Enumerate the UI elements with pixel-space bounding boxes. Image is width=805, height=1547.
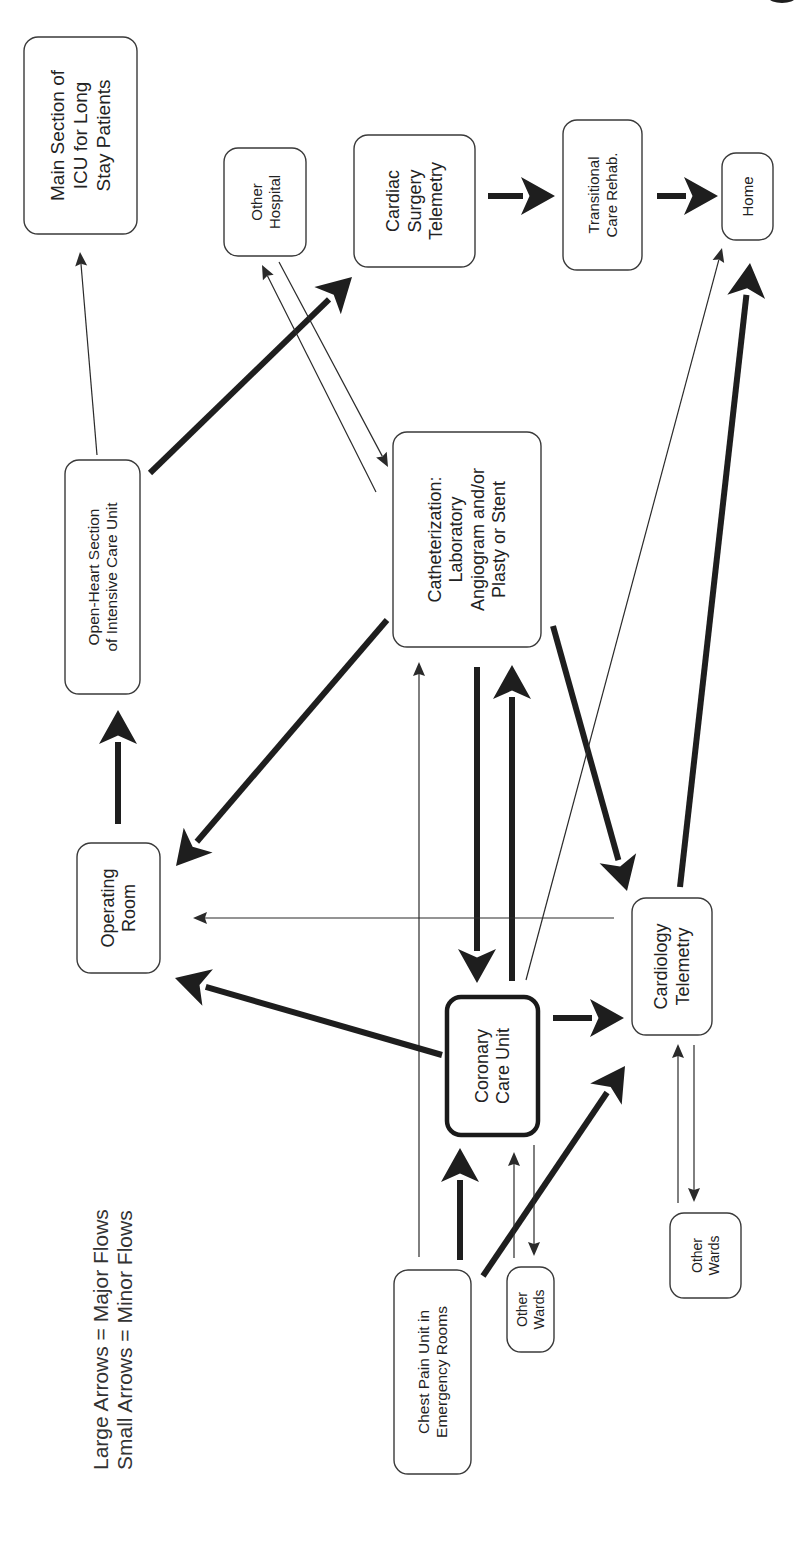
- edge-cardiology-telemetry-to-operating-room: [193, 912, 614, 924]
- edge-other-wards-tele-to-cardiology-telemetry: [672, 1044, 684, 1203]
- arrowhead-icon: [528, 1242, 540, 1256]
- node-label-line: Cardiology: [651, 923, 671, 1009]
- node-label-line: Other: [689, 1238, 705, 1273]
- edge-open-heart-to-main-icu: [75, 252, 97, 455]
- edge-shaft: [206, 987, 442, 1055]
- arrowhead-icon: [684, 177, 718, 215]
- node-label-line: Cardiac: [383, 170, 403, 232]
- arrowhead-icon: [590, 999, 624, 1037]
- patient-flow-diagram: Main Section ofICU for LongStay Patients…: [0, 0, 805, 1547]
- arrowhead-icon: [508, 1152, 520, 1166]
- node-label-line: Coronary: [472, 1029, 492, 1103]
- node-label-line: Wards: [531, 1290, 547, 1330]
- legend-minor-flows: Small Arrows = Minor Flows: [113, 1210, 136, 1470]
- node-label-line: Other: [514, 1292, 530, 1327]
- node-transitional: TransitionalCare Rehab.: [563, 120, 642, 270]
- edge-coronary-care-to-cath-lab: [493, 665, 531, 981]
- edge-coronary-care-to-other-wards-ccu: [528, 1145, 540, 1256]
- node-label-line: Emergency Rooms: [433, 1306, 450, 1438]
- arrowhead-icon: [493, 665, 531, 699]
- nodes-layer: Main Section ofICU for LongStay Patients…: [24, 37, 773, 1474]
- node-chest-pain: Chest Pain Unit inEmergency Rooms: [394, 1270, 471, 1474]
- node-label-line: Stay Patients: [93, 80, 114, 192]
- edge-cardiology-telemetry-to-other-wards-tele: [688, 1045, 700, 1202]
- edge-cardiac-surgery-to-transitional: [488, 177, 555, 215]
- node-other-wards-tele: OtherWards: [670, 1213, 741, 1298]
- node-label-line: Main Section of: [47, 69, 68, 201]
- node-label-line: Wards: [706, 1236, 722, 1276]
- arrowhead-icon: [193, 912, 207, 924]
- node-cardiology-telemetry: CardiologyTelemetry: [632, 898, 712, 1035]
- node-label-line: Telemetry: [673, 927, 693, 1005]
- arrowhead-icon: [99, 710, 137, 744]
- edge-operating-room-to-open-heart: [99, 710, 137, 824]
- node-label-line: Hospital: [266, 175, 283, 229]
- edge-cath-lab-to-cardiology-telemetry: [553, 626, 636, 891]
- edge-coronary-care-to-cardiology-telemetry: [553, 999, 624, 1037]
- edge-open-heart-to-cardiac-surgery: [150, 277, 352, 473]
- node-label-line: Laboratory: [446, 496, 466, 582]
- edge-other-wards-ccu-to-coronary-care: [508, 1152, 520, 1258]
- node-label-line: ICU for Long: [70, 82, 91, 190]
- edge-cath-lab-to-other-hospital: [262, 265, 376, 492]
- edges-layer: [75, 177, 765, 1276]
- node-cath-lab: Catheterization:LaboratoryAngiogram and/…: [393, 432, 541, 647]
- node-label-line: Home: [739, 176, 756, 216]
- node-label-line: Care Rehab.: [603, 152, 620, 237]
- edge-shaft: [553, 626, 618, 860]
- node-label-line: Surgery: [405, 169, 425, 232]
- node-cardiac-surgery: CardiacSurgeryTelemetry: [354, 135, 475, 267]
- node-open-heart: Open-Heart Sectionof Intensive Care Unit: [65, 460, 140, 694]
- node-coronary-care: CoronaryCare Unit: [447, 997, 538, 1135]
- edge-shaft: [197, 620, 387, 842]
- arrowhead-icon: [441, 1148, 479, 1182]
- arrowhead-icon: [590, 1066, 625, 1105]
- node-label-line: Open-Heart Section: [85, 509, 102, 646]
- node-label-line: Care Unit: [493, 1028, 513, 1104]
- arrowhead-icon: [727, 263, 765, 299]
- node-other-hospital: OtherHospital: [224, 148, 306, 256]
- node-label-line: Other: [248, 183, 265, 221]
- arrowhead-icon: [458, 949, 496, 983]
- edge-shaft: [150, 299, 329, 473]
- edge-cath-lab-to-operating-room: [176, 620, 387, 866]
- node-label-line: Operating: [98, 868, 118, 947]
- node-label-line: Room: [119, 884, 139, 932]
- node-label-line: Angiogram and/or: [468, 468, 488, 611]
- node-label-line: Telemetry: [426, 162, 446, 240]
- arrowhead-icon: [521, 177, 555, 215]
- legend-major-flows: Large Arrows = Major Flows: [89, 1209, 112, 1470]
- edge-shaft: [81, 264, 97, 455]
- node-home: Home: [722, 153, 773, 240]
- edge-shaft: [680, 295, 746, 887]
- legend: Large Arrows = Major Flows Small Arrows …: [89, 1209, 136, 1470]
- arrowhead-icon: [688, 1188, 700, 1202]
- node-operating-room: OperatingRoom: [77, 843, 160, 973]
- node-other-wards-ccu: OtherWards: [507, 1267, 554, 1352]
- node-label-line: Chest Pain Unit in: [415, 1310, 432, 1434]
- arrowhead-icon: [413, 662, 425, 676]
- edge-chest-pain-to-coronary-care: [441, 1148, 479, 1260]
- edge-coronary-care-to-operating-room: [175, 969, 442, 1055]
- edge-chest-pain-to-cath-lab: [413, 662, 425, 1257]
- node-label-line: Plasty or Stent: [489, 481, 509, 598]
- arrowhead-icon: [376, 452, 388, 467]
- node-main-icu: Main Section ofICU for LongStay Patients: [24, 37, 137, 234]
- node-label-line: of Intensive Care Unit: [103, 502, 120, 652]
- node-label-line: Transitional: [585, 157, 602, 234]
- edge-transitional-to-home: [657, 177, 718, 215]
- arrowhead-icon: [672, 1044, 684, 1058]
- edge-cath-lab-to-coronary-care: [458, 667, 496, 983]
- node-label-line: Catheterization:: [425, 476, 445, 602]
- corner-mark: [769, 0, 795, 3]
